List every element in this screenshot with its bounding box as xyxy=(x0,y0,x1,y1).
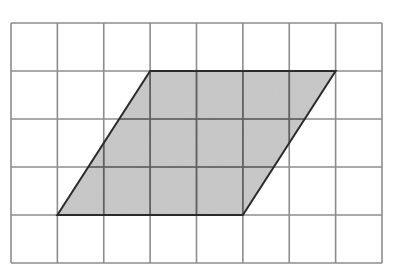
grid-diagram xyxy=(0,0,401,274)
